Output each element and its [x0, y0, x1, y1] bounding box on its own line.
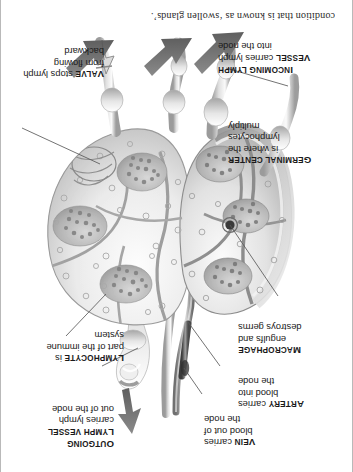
callout-germinal-center-term: GERMINAL CENTER: [228, 155, 311, 164]
callout-germinal-center-line3: multiply: [228, 121, 260, 131]
callout-vein: VEIN carries blood out of the node: [204, 413, 322, 448]
callout-artery-line2: blood into: [238, 388, 278, 398]
callout-incoming-line1: carries lymph: [218, 53, 273, 63]
callout-vein-line3: the node: [204, 414, 240, 424]
callout-macrophage-term: MACROPHAGE: [238, 345, 301, 354]
callout-macrophage-line2: destroys germs: [238, 322, 302, 332]
callout-lymphocyte-line1: is: [55, 353, 62, 363]
callout-incoming-term-line1: INCOMING LYMPH: [218, 65, 293, 74]
callout-incoming-lymph-vessel: INCOMING LYMPH VESSEL carries lymph into…: [218, 40, 350, 76]
callout-artery-term: ARTERY: [269, 399, 304, 408]
callout-outgoing-term-line1: OUTGOING: [67, 439, 114, 448]
callout-outgoing-term-line2: LYMPH VESSEL: [48, 427, 114, 436]
callout-lymphocyte-term: LYMPHOCYTE: [64, 353, 124, 362]
leader-artery: [188, 322, 220, 366]
rotated-page-content: VEIN carries blood out of the node ARTER…: [1, 0, 352, 472]
callout-macrophage: MACROPHAGE engulfs and destroys germs: [238, 321, 350, 356]
callout-outgoing-line2: out of the node: [52, 404, 114, 414]
page-body-text: condition that is known as ‘swollen glan…: [83, 11, 335, 22]
callout-vein-line1: carries: [204, 437, 232, 447]
callout-lymphocyte: LYMPHOCYTE is part of the immune system: [2, 329, 124, 364]
callout-vein-term: VEIN: [235, 437, 256, 446]
callout-lymphocyte-line3: system: [95, 330, 124, 340]
callout-artery-line3: the node: [238, 376, 274, 386]
callout-germinal-center: GERMINAL CENTER is where the lymphocytes…: [228, 119, 350, 166]
callout-lymphocyte-line2: part of the immune: [46, 342, 124, 352]
outgoing-flow-arrow: [118, 388, 141, 434]
callout-valve-line2: from flowing: [54, 58, 104, 68]
callout-valve-term: VALVE: [75, 69, 104, 78]
callout-incoming-line2: into the node: [218, 41, 272, 51]
callout-valve: VALVE stops lymph from flowing backward: [2, 45, 104, 80]
callout-germinal-center-line1: is where the: [228, 144, 278, 154]
callout-germinal-center-line2: lymphocytes: [228, 132, 280, 142]
callout-outgoing-line1: carries lymph: [59, 415, 114, 425]
callout-incoming-term-line2: VESSEL: [276, 53, 310, 62]
diagram-page: VEIN carries blood out of the node ARTER…: [0, 0, 353, 472]
callout-vein-line2: blood out of: [204, 426, 253, 436]
callout-artery-line1: carries: [238, 399, 266, 409]
leader-vein: [184, 368, 202, 394]
callout-valve-line3: backward: [64, 46, 104, 56]
callout-artery: ARTERY carries blood into the node: [238, 375, 350, 410]
callout-macrophage-line1: engulfs and: [238, 334, 286, 344]
callout-valve-line1: stops lymph: [23, 69, 73, 79]
callout-outgoing-lymph-vessel: OUTGOING LYMPH VESSEL carries lymph out …: [2, 402, 114, 450]
